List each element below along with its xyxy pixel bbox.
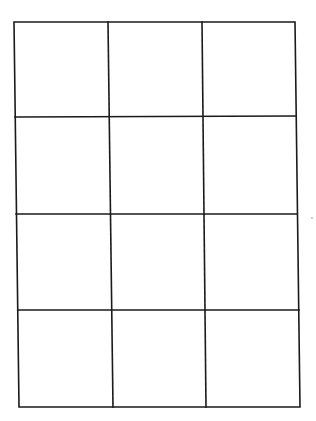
grid-diagram: [0, 0, 316, 421]
stray-mark: [311, 217, 313, 219]
grid-horizontal-divider-1: [15, 116, 296, 117]
grid-svg: [0, 0, 316, 421]
